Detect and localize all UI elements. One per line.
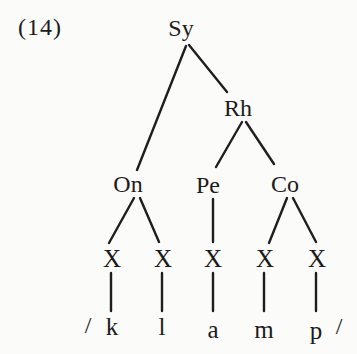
phoneme-a: a bbox=[207, 317, 218, 342]
edge-on-x1 bbox=[109, 198, 134, 243]
x-slot-3: X bbox=[204, 246, 222, 271]
edge-sy-on bbox=[137, 46, 186, 170]
edge-co-x5 bbox=[293, 198, 316, 242]
edge-rh-co bbox=[246, 122, 274, 164]
phoneme-k: k bbox=[106, 314, 119, 339]
phoneme-m: m bbox=[254, 317, 273, 342]
edge-sy-rh bbox=[189, 45, 227, 92]
node-onset: On bbox=[113, 172, 142, 196]
x-slot-4: X bbox=[256, 246, 274, 271]
phoneme-l: l bbox=[159, 314, 166, 339]
node-syllable: Sy bbox=[168, 16, 193, 40]
slash-open: / bbox=[85, 313, 92, 337]
x-slot-5: X bbox=[308, 246, 326, 271]
slash-close: / bbox=[336, 314, 343, 338]
edge-rh-pe bbox=[216, 122, 242, 167]
phoneme-p: p bbox=[310, 318, 323, 343]
example-number: (14) bbox=[18, 15, 62, 39]
tree-edges bbox=[0, 0, 357, 354]
node-rhyme: Rh bbox=[224, 96, 252, 120]
node-coda: Co bbox=[271, 172, 299, 196]
syllable-tree-figure: (14) Sy Rh On Pe Co X X X X X / k l a m … bbox=[0, 0, 357, 354]
edge-on-x2 bbox=[140, 198, 159, 242]
node-peak: Pe bbox=[196, 173, 220, 197]
x-slot-2: X bbox=[154, 246, 172, 271]
x-slot-1: X bbox=[103, 246, 121, 271]
edge-co-x4 bbox=[269, 198, 287, 243]
